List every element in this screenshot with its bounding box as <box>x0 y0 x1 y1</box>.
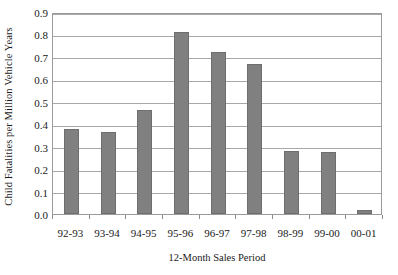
x-axis-tick <box>309 215 310 219</box>
x-axis-tick-label: 92-93 <box>57 227 83 239</box>
x-axis-tick <box>235 215 236 219</box>
y-axis-tick-label: 0.4 <box>34 119 48 131</box>
y-axis-tick-label: 0.6 <box>34 74 48 86</box>
x-axis-tick <box>272 215 273 219</box>
x-axis-tick-label: 97-98 <box>241 227 267 239</box>
x-axis-tick-labels: 92-9393-9494-9595-9696-9797-9898-9999-00… <box>52 227 382 245</box>
bars-layer <box>53 14 381 214</box>
bar-96-97 <box>211 52 226 214</box>
bar-00-01 <box>357 210 372 214</box>
x-axis-ticks <box>52 215 382 220</box>
bar-93-94 <box>101 132 116 214</box>
y-axis-tick-label: 0.9 <box>34 7 48 19</box>
x-axis-tick <box>382 215 383 219</box>
y-axis-tick-label: 0.2 <box>34 164 48 176</box>
y-axis-title: Child Fatalities per Million Vehicle Yea… <box>0 0 16 232</box>
x-axis-tick-label: 95-96 <box>167 227 193 239</box>
bar-99-00 <box>321 152 336 214</box>
bar-92-93 <box>64 129 79 214</box>
y-axis-tick-label: 0.8 <box>34 29 48 41</box>
y-axis-tick-label: 0.1 <box>34 187 48 199</box>
y-axis-tick-label: 0.5 <box>34 97 48 109</box>
x-axis-tick-label: 96-97 <box>204 227 230 239</box>
y-axis-tick-labels: 0.00.10.20.30.40.50.60.70.80.9 <box>16 13 52 215</box>
x-axis-tick-label: 98-99 <box>277 227 303 239</box>
x-axis-tick-label: 94-95 <box>131 227 157 239</box>
x-axis-tick <box>199 215 200 219</box>
y-axis-tick-label: 0.7 <box>34 52 48 64</box>
plot-area <box>52 13 382 215</box>
bar-94-95 <box>137 110 152 214</box>
x-axis-tick-label: 93-94 <box>94 227 120 239</box>
x-axis-tick <box>89 215 90 219</box>
x-axis-tick <box>345 215 346 219</box>
x-axis-tick-label: 99-00 <box>314 227 340 239</box>
bar-97-98 <box>247 64 262 214</box>
y-axis-tick-label: 0.0 <box>34 209 48 221</box>
x-axis-title: 12-Month Sales Period <box>52 252 382 263</box>
y-axis-tick-label: 0.3 <box>34 142 48 154</box>
x-axis-tick <box>162 215 163 219</box>
x-axis-tick-label: 00-01 <box>351 227 377 239</box>
bar-chart: Child Fatalities per Million Vehicle Yea… <box>0 0 398 275</box>
x-axis-tick <box>125 215 126 219</box>
y-axis-title-text: Child Fatalities per Million Vehicle Yea… <box>3 27 14 205</box>
bar-98-99 <box>284 151 299 214</box>
bar-95-96 <box>174 32 189 214</box>
x-axis-tick <box>52 215 53 219</box>
